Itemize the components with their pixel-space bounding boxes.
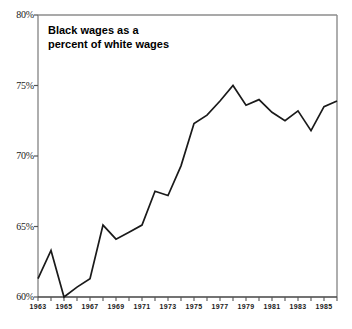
chart-figure: 60%65%70%75%80% 196319651967196919711973… <box>0 0 352 329</box>
data-series-line <box>38 86 337 298</box>
y-axis-tick-label: 80% <box>2 9 34 20</box>
x-axis-tick-label: 1985 <box>308 303 340 310</box>
chart-title: Black wages as a percent of white wages <box>48 23 169 51</box>
y-axis-tick-label: 75% <box>2 80 34 91</box>
y-axis-tick-label: 60% <box>2 291 34 302</box>
plot-frame <box>38 15 337 297</box>
y-axis-tick-label: 70% <box>2 150 34 161</box>
y-axis-tick-label: 65% <box>2 221 34 232</box>
